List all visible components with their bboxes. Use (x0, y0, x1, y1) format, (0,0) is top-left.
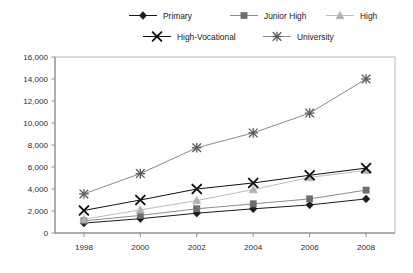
y-tick-label: 10,000 (23, 119, 48, 128)
data-point-asterisk (79, 189, 89, 199)
x-tick-label: 2008 (357, 243, 376, 252)
x-tick-label: 1998 (75, 243, 94, 252)
y-tick-label: 6,000 (28, 163, 49, 172)
data-point-square (363, 187, 369, 193)
x-tick-label: 2004 (244, 243, 263, 252)
chart-canvas: PrimaryJunior HighHighHigh-VocationalUni… (0, 0, 413, 273)
data-point-asterisk (361, 74, 371, 84)
legend-label: High (360, 11, 378, 21)
data-point-asterisk (248, 128, 258, 138)
legend-label: Junior High (264, 11, 307, 21)
legend-marker-asterisk-icon (272, 32, 282, 42)
legend-label: High-Vocational (177, 32, 236, 42)
y-tick-label: 12,000 (23, 97, 48, 106)
y-tick-label: 8,000 (28, 141, 49, 150)
legend-item-university[interactable]: University (263, 32, 335, 42)
y-tick-label: 2,000 (28, 207, 49, 216)
data-point-asterisk (192, 143, 202, 153)
y-tick-label: 14,000 (23, 75, 48, 84)
data-point-square (194, 206, 200, 212)
y-tick-label: 0 (43, 229, 48, 238)
legend-marker-square-icon (241, 12, 247, 18)
y-tick-label: 4,000 (28, 185, 49, 194)
data-point-asterisk (136, 169, 146, 179)
y-tick-label: 16,000 (23, 53, 48, 62)
x-tick-label: 2006 (301, 243, 320, 252)
data-point-square (250, 201, 256, 207)
line-chart: PrimaryJunior HighHighHigh-VocationalUni… (0, 0, 413, 273)
legend-label: Primary (163, 11, 193, 21)
x-tick-label: 2000 (131, 243, 150, 252)
legend-label: University (297, 32, 335, 42)
x-tick-label: 2002 (188, 243, 207, 252)
data-point-asterisk (305, 108, 315, 118)
data-point-square (307, 196, 313, 202)
